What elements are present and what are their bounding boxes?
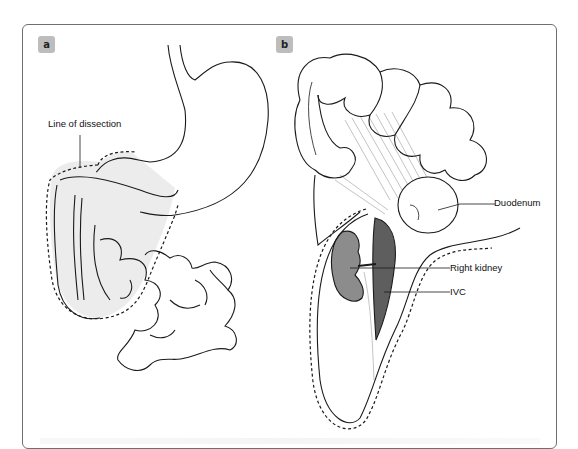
duodenum (398, 177, 458, 233)
panel-a-badge: a (38, 36, 55, 53)
panel-a-drawing (46, 45, 268, 370)
label-ivc: IVC (450, 286, 466, 297)
label-duodenum: Duodenum (494, 197, 540, 208)
ivc (373, 218, 396, 340)
transverse-colon (298, 54, 486, 180)
label-right-kidney: Right kidney (450, 262, 502, 273)
panel-b-badge: b (276, 36, 293, 53)
panel-b-drawing (295, 54, 520, 429)
label-line-of-dissection: Line of dissection (48, 118, 121, 129)
dissection-region (50, 152, 175, 318)
caption-bleed (40, 438, 540, 444)
